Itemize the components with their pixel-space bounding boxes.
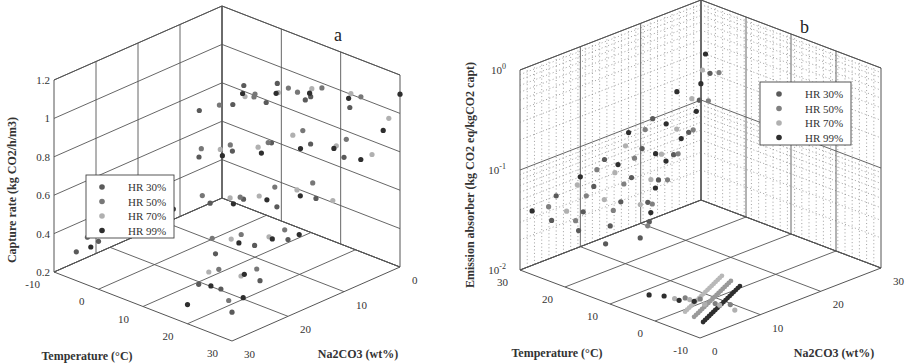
x-tick-a: 0 (79, 295, 85, 307)
figure: 0.20.40.60.811.2-1001020300102030 a Capt… (0, 0, 907, 363)
data-point (584, 193, 589, 198)
data-point (722, 285, 727, 290)
data-point (331, 146, 336, 151)
legend-box-b (760, 82, 851, 145)
data-point (687, 305, 692, 310)
data-point (218, 286, 223, 291)
data-point (716, 291, 721, 296)
data-point (697, 295, 702, 300)
data-point (703, 318, 708, 323)
data-point (358, 94, 363, 99)
data-point (196, 154, 201, 159)
data-point (653, 151, 658, 156)
data-point (662, 293, 667, 298)
y-tick-b: 0 (712, 345, 718, 357)
data-point (707, 285, 712, 290)
data-point (698, 296, 703, 301)
data-point (241, 295, 246, 300)
x-tick-b: 20 (542, 293, 554, 305)
data-point (693, 299, 698, 304)
data-point (701, 320, 706, 325)
data-point (696, 311, 701, 316)
data-point (330, 198, 335, 203)
x-tick-b: 0 (638, 327, 644, 339)
data-point (313, 196, 318, 201)
data-point (564, 209, 569, 214)
data-point (240, 91, 245, 96)
data-point (397, 92, 402, 97)
data-point (257, 193, 262, 198)
data-point (199, 146, 204, 151)
data-point (705, 287, 710, 292)
data-point (618, 199, 623, 204)
data-point (717, 275, 722, 280)
data-point (208, 201, 213, 206)
data-point (685, 307, 690, 312)
data-point (703, 51, 708, 56)
data-point (602, 197, 607, 202)
legend-marker (776, 91, 782, 97)
data-point (727, 294, 732, 299)
data-point (591, 184, 596, 189)
y-tick-b: 20 (833, 298, 845, 310)
data-point (715, 277, 720, 282)
data-point (285, 237, 290, 242)
data-point (702, 305, 707, 310)
legend-label: HR 30% (805, 88, 843, 100)
data-point (231, 201, 236, 206)
data-point (290, 133, 295, 138)
data-point (700, 67, 705, 72)
chart-a-gridlines (54, 6, 400, 341)
data-point (573, 218, 578, 223)
chart-a-capture-rate: 0.20.40.60.811.2-1001020300102030 a Capt… (0, 0, 450, 363)
data-point (346, 96, 351, 101)
data-point (707, 71, 712, 76)
z-axis-title-a: Capture rate (kg CO2/h/m3) (5, 117, 19, 263)
data-point (683, 295, 688, 300)
y-tick-a: 20 (300, 323, 312, 335)
data-point (726, 281, 731, 286)
data-point (602, 157, 607, 162)
data-point (200, 193, 205, 198)
data-point (638, 202, 643, 207)
data-point (708, 299, 713, 304)
data-point (612, 170, 617, 175)
data-point (721, 300, 726, 305)
data-point (297, 232, 302, 237)
data-point (713, 308, 718, 313)
chart-b-scatter-points (530, 51, 743, 324)
legend-label: HR 99% (805, 132, 843, 144)
data-point (264, 100, 269, 105)
data-point (686, 130, 691, 135)
legend-marker (99, 213, 105, 219)
data-point (638, 235, 643, 240)
data-point (594, 167, 599, 172)
legend-marker (776, 106, 782, 112)
data-point (578, 174, 583, 179)
data-point (254, 266, 259, 271)
z-tick-b: 10-1 (488, 162, 506, 176)
data-point (691, 127, 696, 132)
data-point (581, 209, 586, 214)
data-point (664, 121, 669, 126)
data-point (386, 116, 391, 121)
data-point (549, 218, 554, 223)
data-point (679, 136, 684, 141)
data-point (706, 98, 711, 103)
x-tick-a: 10 (118, 313, 130, 325)
data-point (702, 302, 707, 307)
data-point (697, 98, 702, 103)
data-point (699, 293, 704, 298)
data-point (303, 97, 308, 102)
data-point (603, 241, 608, 246)
data-point (88, 244, 93, 249)
data-point (738, 284, 743, 289)
data-point (272, 185, 277, 190)
data-point (717, 303, 722, 308)
data-point (707, 314, 712, 319)
data-point (611, 208, 616, 213)
data-point (236, 240, 241, 245)
data-point (732, 308, 737, 313)
data-point (242, 272, 247, 277)
data-point (663, 159, 668, 164)
